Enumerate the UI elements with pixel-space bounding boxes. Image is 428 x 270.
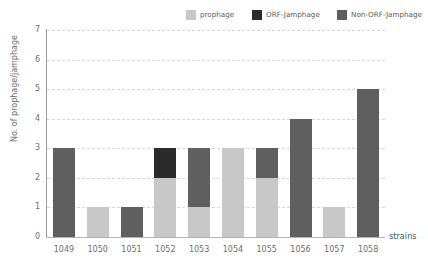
gridline [47,178,385,179]
bar-1055[interactable] [256,148,278,237]
chart-legend: prophage ORF-Jamphage Non-ORF-Jamphage [0,8,428,22]
gridline [47,30,385,31]
legend-label-prophage: prophage [200,10,234,20]
bar-segment-prophage [256,178,278,237]
bar-1053[interactable] [188,148,210,237]
bar-1051[interactable] [121,207,143,237]
bar-segment-prophage [154,178,176,237]
bar-segment-orf-jamphage [154,148,176,178]
bar-segment-non-orf-jamphage [53,148,75,237]
y-tick-label: 1 [14,203,40,211]
gridline [47,119,385,120]
y-tick-label: 6 [14,56,40,64]
legend-item-prophage[interactable]: prophage [186,8,234,22]
x-axis-line [46,237,385,238]
bar-segment-prophage [222,148,244,237]
y-tick-label: 7 [14,26,40,34]
bar-1052[interactable] [154,148,176,237]
legend-swatch-non-orf-jamphage [337,10,347,20]
bar-segment-non-orf-jamphage [121,207,143,237]
stacked-bar-chart: prophage ORF-Jamphage Non-ORF-Jamphage N… [0,0,428,270]
gridline [47,148,385,149]
bar-1058[interactable] [357,89,379,237]
bar-segment-non-orf-jamphage [256,148,278,178]
bar-1054[interactable] [222,148,244,237]
bar-segment-non-orf-jamphage [290,119,312,237]
gridline [47,89,385,90]
bar-segment-prophage [188,207,210,237]
x-axis-title: strains [389,231,417,241]
legend-item-non-orf-jamphage[interactable]: Non-ORF-Jamphage [337,8,422,22]
legend-label-orf-jamphage: ORF-Jamphage [266,10,320,20]
y-tick-label: 2 [14,174,40,182]
bar-1049[interactable] [53,148,75,237]
bar-segment-prophage [87,207,109,237]
legend-label-non-orf-jamphage: Non-ORF-Jamphage [351,10,422,20]
legend-item-orf-jamphage[interactable]: ORF-Jamphage [252,8,320,22]
bar-segment-non-orf-jamphage [357,89,379,237]
y-tick-label: 3 [14,144,40,152]
y-tick-label: 0 [14,233,40,241]
bar-1057[interactable] [323,207,345,237]
x-tick-label-1058: 1058 [348,245,388,254]
y-tick-label: 4 [14,115,40,123]
bar-segment-non-orf-jamphage [188,148,210,207]
bar-1050[interactable] [87,207,109,237]
bar-1056[interactable] [290,119,312,237]
gridline [47,60,385,61]
legend-swatch-orf-jamphage [252,10,262,20]
plot-area [47,30,385,237]
y-tick-label: 5 [14,85,40,93]
legend-swatch-prophage [186,10,196,20]
bar-segment-prophage [323,207,345,237]
